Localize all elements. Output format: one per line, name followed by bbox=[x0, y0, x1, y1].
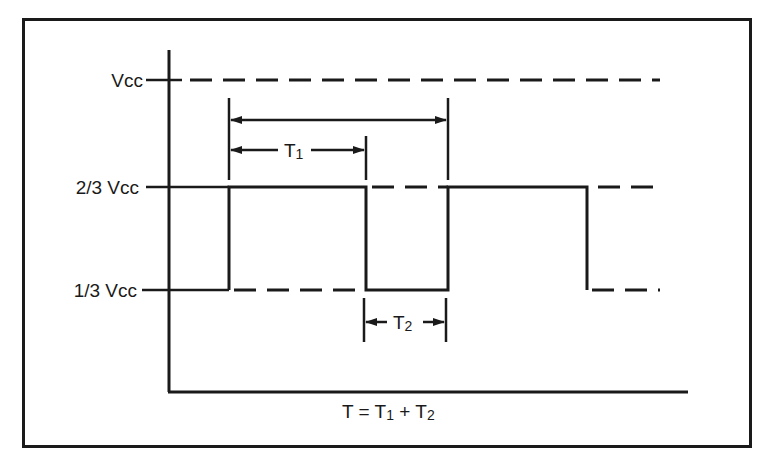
dimension-extensions bbox=[229, 98, 448, 342]
one-third-vcc-label: 1/3 Vcc bbox=[74, 280, 137, 301]
waveform-diagram: T1 T2 Vcc 2/3 Vcc 1/3 Vcc T = T1 + T2 bbox=[0, 0, 772, 464]
vcc-label: Vcc bbox=[111, 70, 143, 91]
level-ticks bbox=[142, 80, 229, 290]
period-formula: T = T1 + T2 bbox=[342, 401, 435, 423]
t2-dimension: T2 bbox=[366, 312, 444, 334]
reference-lines bbox=[190, 80, 660, 290]
square-wave bbox=[229, 187, 587, 290]
t2-label: T2 bbox=[393, 312, 413, 334]
axes bbox=[168, 50, 688, 392]
t1-dimension: T1 bbox=[231, 140, 364, 162]
two-thirds-vcc-label: 2/3 Vcc bbox=[76, 177, 139, 198]
t1-label: T1 bbox=[284, 140, 304, 162]
